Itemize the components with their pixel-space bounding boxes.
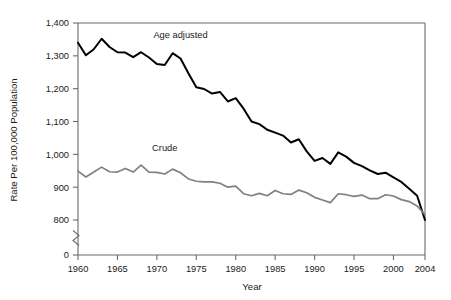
y-tick-label: 0	[64, 250, 69, 260]
y-tick-label: 1,400	[46, 18, 69, 28]
y-tick-label: 1,000	[46, 150, 69, 160]
x-tick-label: 1965	[107, 264, 128, 274]
series-label-age-adjusted: Age adjusted	[153, 30, 207, 40]
x-axis-title: Year	[242, 281, 262, 292]
y-axis-title: Rate Per 100,000 Population	[8, 78, 19, 201]
chart-canvas: 08009001,0001,1001,2001,3001,400 1960196…	[0, 0, 451, 300]
series-label-crude: Crude	[152, 143, 177, 153]
x-tick-label: 1995	[344, 264, 365, 274]
y-tick-label: 800	[53, 215, 69, 225]
x-tick-label: 1990	[304, 264, 325, 274]
x-tick-label: 1985	[265, 264, 286, 274]
y-tick-label: 900	[53, 183, 69, 193]
x-tick-label: 2000	[383, 264, 404, 274]
x-tick-label: 1960	[68, 264, 89, 274]
x-tick-label: 1970	[147, 264, 168, 274]
y-tick-label: 1,100	[46, 117, 69, 127]
x-tick-label: 2004	[415, 264, 436, 274]
y-tick-label: 1,200	[46, 84, 69, 94]
x-tick-label: 1975	[186, 264, 207, 274]
line-chart: 08009001,0001,1001,2001,3001,400 1960196…	[0, 0, 451, 300]
y-tick-label: 1,300	[46, 51, 69, 61]
x-tick-label: 1980	[225, 264, 246, 274]
